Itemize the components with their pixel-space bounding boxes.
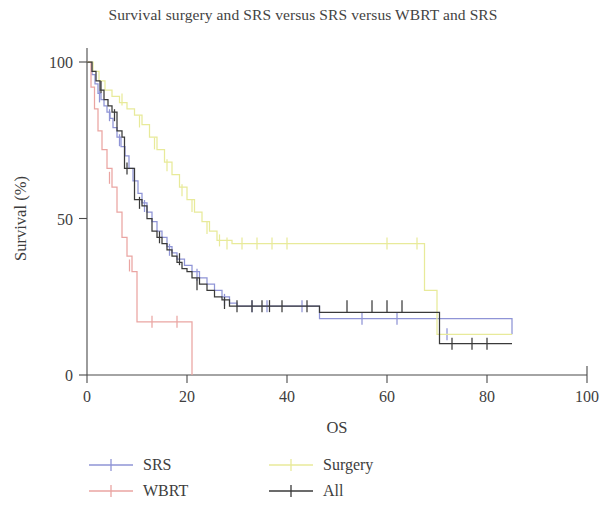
legend-entry-all[interactable]: All	[268, 482, 448, 500]
chart-legend: SRSSurgeryWBRTAll	[88, 452, 488, 504]
km-step-line	[87, 62, 192, 375]
y-tick-label: 100	[49, 54, 73, 71]
km-step-line	[87, 62, 512, 334]
legend-label: All	[323, 482, 343, 500]
legend-entry-srs[interactable]: SRS	[88, 456, 268, 474]
y-tick-label: 0	[65, 367, 73, 384]
curve-all	[87, 62, 512, 350]
y-tick-label: 50	[57, 211, 73, 228]
legend-entry-wbrt[interactable]: WBRT	[88, 482, 268, 500]
km-step-line	[87, 62, 512, 344]
legend-label: WBRT	[143, 482, 188, 500]
x-tick-label: 80	[479, 388, 495, 405]
x-axis-title: OS	[326, 418, 347, 437]
survival-curves	[87, 62, 512, 375]
legend-label: SRS	[143, 456, 171, 474]
x-tick-label: 100	[575, 388, 599, 405]
legend-marker-icon	[88, 484, 134, 498]
axes	[79, 48, 587, 383]
legend-entry-surgery[interactable]: Surgery	[268, 456, 448, 474]
x-tick-label: 60	[379, 388, 395, 405]
legend-marker-icon	[268, 484, 314, 498]
y-axis-title: Survival (%)	[11, 176, 30, 261]
plot-area: 050100020406080100OSSurvival (%)	[0, 0, 606, 446]
curve-wbrt	[87, 62, 192, 375]
survival-chart-figure: Survival surgery and SRS versus SRS vers…	[0, 0, 606, 511]
km-step-line	[87, 62, 512, 334]
curve-srs	[87, 62, 512, 340]
legend-label: Surgery	[323, 456, 373, 474]
curve-surgery	[87, 62, 512, 334]
x-tick-label: 20	[179, 388, 195, 405]
x-tick-label: 40	[279, 388, 295, 405]
x-tick-label: 0	[83, 388, 91, 405]
axis-labels: 050100020406080100OSSurvival (%)	[11, 54, 599, 437]
legend-marker-icon	[88, 458, 134, 472]
legend-marker-icon	[268, 458, 314, 472]
